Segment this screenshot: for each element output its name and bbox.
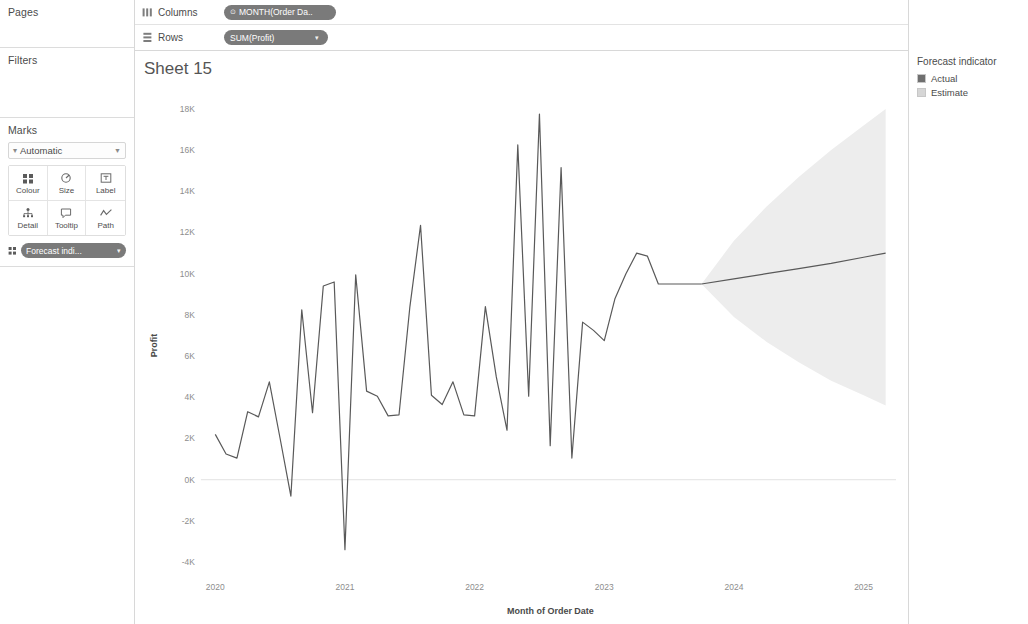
marks-card: Marks ▾ Automatic ▼ Colour xyxy=(0,118,134,267)
marks-button-label: Tooltip xyxy=(55,222,78,230)
y-axis-tick-label: 10K xyxy=(180,269,195,279)
pages-label: Pages xyxy=(8,6,126,18)
mark-type-shape-icon: ▾ xyxy=(13,146,17,155)
x-axis-tick-label: 2024 xyxy=(725,582,744,592)
marks-button-label: Path xyxy=(97,222,113,230)
marks-button-label: Detail xyxy=(18,222,38,230)
marks-type-dropdown[interactable]: ▾ Automatic ▼ xyxy=(8,142,126,159)
legend-title: Forecast indicator xyxy=(917,56,1028,67)
y-axis-tick-label: 0K xyxy=(185,475,196,485)
legend-item-estimate[interactable]: Estimate xyxy=(917,87,1028,98)
columns-shelf[interactable]: Columns ⊙ MONTH(Order Da.. xyxy=(135,0,908,25)
marks-button-path[interactable]: Path xyxy=(86,201,125,235)
x-axis-tick-label: 2023 xyxy=(595,582,614,592)
y-axis-title: Profit xyxy=(149,334,159,357)
visualization-area[interactable]: Sheet 15 18K16K14K12K10K8K6K4K2K0K-2K-4K… xyxy=(135,51,908,624)
x-axis-tick-label: 2021 xyxy=(336,582,355,592)
x-axis-tick-label: 2022 xyxy=(465,582,484,592)
legend-panel: Forecast indicator Actual Estimate xyxy=(908,0,1028,624)
actual-profit-line[interactable] xyxy=(215,114,701,550)
tableau-worksheet: Pages Filters Marks ▾ Automatic ▼ xyxy=(0,0,1028,624)
chevron-down-icon: ▼ xyxy=(114,147,121,154)
marks-button-colour[interactable]: Colour xyxy=(9,166,48,201)
x-axis-tick-label: 2025 xyxy=(854,582,873,592)
chevron-down-icon: ▾ xyxy=(315,34,319,42)
legend-label-estimate: Estimate xyxy=(931,87,968,98)
left-shelf-panel: Pages Filters Marks ▾ Automatic ▼ xyxy=(0,0,135,624)
marks-label: Marks xyxy=(8,124,126,136)
legend-swatch-estimate xyxy=(917,88,926,97)
worksheet-center: Columns ⊙ MONTH(Order Da.. Rows SUM(Prof… xyxy=(135,0,908,624)
marks-button-label: Colour xyxy=(16,187,40,195)
y-axis-tick-label: 14K xyxy=(180,186,195,196)
y-axis-tick-label: 16K xyxy=(180,145,195,155)
y-axis-tick-label: -2K xyxy=(182,516,196,526)
y-axis-tick-label: 6K xyxy=(185,351,196,361)
columns-icon xyxy=(142,7,153,18)
colour-icon xyxy=(8,246,17,256)
rows-pill-label: SUM(Profit) xyxy=(230,33,274,43)
x-axis-title: Month of Order Date xyxy=(507,606,594,616)
shelf-area: Columns ⊙ MONTH(Order Da.. Rows SUM(Prof… xyxy=(135,0,908,51)
filters-label: Filters xyxy=(8,54,126,66)
rows-shelf[interactable]: Rows SUM(Profit) ▾ xyxy=(135,25,908,50)
rows-label: Rows xyxy=(158,32,224,43)
colour-icon xyxy=(21,172,35,185)
chevron-down-icon: ▾ xyxy=(117,247,121,255)
pages-shelf[interactable]: Pages xyxy=(0,0,134,48)
columns-pill-month-order-date[interactable]: ⊙ MONTH(Order Da.. xyxy=(224,5,336,20)
label-icon xyxy=(99,172,113,185)
marks-type-value: Automatic xyxy=(20,145,114,156)
columns-pill-label: MONTH(Order Da.. xyxy=(239,7,313,17)
size-icon xyxy=(59,172,73,185)
path-icon xyxy=(99,207,113,220)
forecast-confidence-band xyxy=(702,109,886,406)
y-axis-tick-label: 12K xyxy=(180,227,195,237)
line-chart[interactable]: 18K16K14K12K10K8K6K4K2K0K-2K-4KProfit202… xyxy=(135,51,908,624)
y-axis-tick-label: -4K xyxy=(182,557,196,567)
y-axis-tick-label: 4K xyxy=(185,392,196,402)
y-axis-tick-label: 18K xyxy=(180,104,195,114)
legend-swatch-actual xyxy=(917,74,926,83)
legend-label-actual: Actual xyxy=(931,73,957,84)
filters-shelf[interactable]: Filters xyxy=(0,48,134,118)
columns-label: Columns xyxy=(158,7,224,18)
marks-pill-label: Forecast indi... xyxy=(26,246,114,256)
y-axis-tick-label: 2K xyxy=(185,434,196,444)
marks-button-label-text: Label xyxy=(96,187,116,195)
legend-item-actual[interactable]: Actual xyxy=(917,73,1028,84)
marks-button-detail[interactable]: Detail xyxy=(9,201,48,235)
marks-colour-pill-row: Forecast indi... ▾ xyxy=(8,243,126,258)
x-axis-tick-label: 2020 xyxy=(206,582,225,592)
marks-forecast-indicator-pill[interactable]: Forecast indi... ▾ xyxy=(21,243,126,258)
marks-buttons-grid: Colour Size Label xyxy=(8,165,126,236)
marks-button-tooltip[interactable]: Tooltip xyxy=(48,201,87,235)
tooltip-icon xyxy=(59,207,73,220)
marks-button-label: Size xyxy=(59,187,75,195)
detail-icon xyxy=(21,207,35,220)
rows-pill-sum-profit[interactable]: SUM(Profit) ▾ xyxy=(224,30,328,45)
marks-button-size[interactable]: Size xyxy=(48,166,87,201)
rows-icon xyxy=(142,32,153,43)
marks-button-label[interactable]: Label xyxy=(86,166,125,201)
date-field-icon: ⊙ xyxy=(230,8,236,16)
y-axis-tick-label: 8K xyxy=(185,310,196,320)
